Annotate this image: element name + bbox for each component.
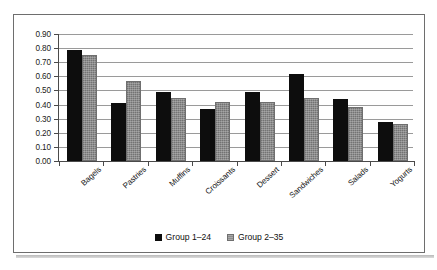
legend-label: Group 2–35	[238, 232, 283, 242]
category-axis-label: Yogurts	[389, 165, 414, 189]
value-axis-tick-label: 0.40	[35, 100, 51, 109]
category-axis-label: Bagels	[80, 165, 104, 188]
legend-swatch-icon	[227, 234, 234, 241]
bar	[67, 50, 82, 161]
category-axis-label: Pastries	[121, 165, 148, 190]
category-axis-tick	[192, 161, 193, 166]
value-axis-tick-label: 0.10	[35, 142, 51, 151]
bar	[171, 98, 186, 162]
bar	[260, 102, 275, 161]
plot-area: 0.000.100.200.300.400.500.600.700.800.90	[58, 34, 413, 161]
chart-legend: Group 1–24Group 2–35	[14, 232, 424, 242]
bar	[304, 98, 319, 161]
legend-swatch-icon	[155, 234, 162, 241]
category-axis-tick	[103, 161, 104, 166]
bar	[289, 74, 304, 161]
value-axis-tick-label: 0.30	[35, 114, 51, 123]
bar	[393, 124, 408, 161]
value-axis-tick-label: 0.80	[35, 44, 51, 53]
category-axis-tick	[59, 161, 60, 166]
bar	[378, 122, 393, 161]
bar	[245, 92, 260, 161]
category-axis-label: Sandwiches	[288, 165, 325, 200]
value-axis-tick-label: 0.50	[35, 86, 51, 95]
bar	[348, 107, 363, 161]
bar	[126, 81, 141, 161]
category-axis-label: Dessert	[255, 165, 281, 190]
bar-group	[192, 34, 236, 161]
category-axis-label: Muffins	[168, 165, 193, 188]
bar-group	[325, 34, 369, 161]
category-axis-label: Salads	[346, 165, 370, 188]
category-axis-tick	[237, 161, 238, 166]
value-axis-tick-label: 0.70	[35, 58, 51, 67]
bar	[200, 109, 215, 161]
category-axis-tick	[414, 161, 415, 166]
bar	[82, 55, 97, 161]
bar	[156, 92, 171, 161]
bar	[111, 103, 126, 161]
bar	[215, 102, 230, 161]
frame-shadow	[16, 255, 434, 258]
bar	[333, 99, 348, 161]
bar-group	[103, 34, 147, 161]
chart-frame: 0.000.100.200.300.400.500.600.700.800.90…	[13, 14, 425, 253]
value-axis-tick-label: 0.60	[35, 72, 51, 81]
category-axis-tick	[325, 161, 326, 166]
bars-layer	[59, 34, 413, 161]
legend-entry: Group 2–35	[227, 232, 283, 242]
legend-entry: Group 1–24	[155, 232, 211, 242]
legend-label: Group 1–24	[166, 232, 211, 242]
bar-group	[148, 34, 192, 161]
bar-group	[281, 34, 325, 161]
bar-group	[237, 34, 281, 161]
value-axis-tick-label: 0.20	[35, 128, 51, 137]
value-axis-tick-label: 0.00	[35, 157, 51, 166]
category-axis-tick	[281, 161, 282, 166]
category-axis-label: Croissants	[203, 165, 236, 196]
category-axis-tick	[148, 161, 149, 166]
category-axis-tick	[370, 161, 371, 166]
bar-group	[370, 34, 414, 161]
value-axis-tick-label: 0.90	[35, 30, 51, 39]
bar-group	[59, 34, 103, 161]
